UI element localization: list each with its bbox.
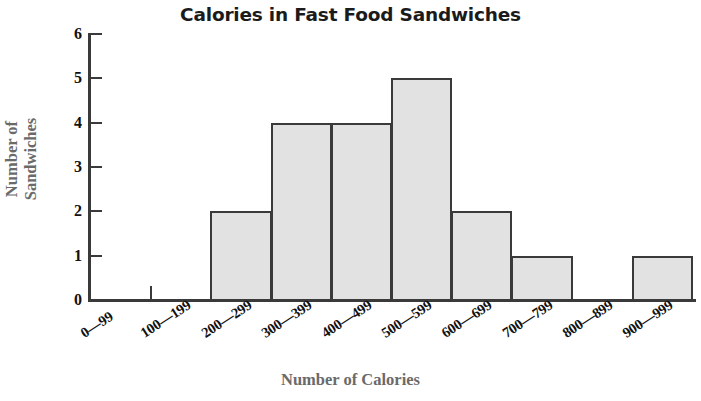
y-axis-tick-label: 4 [58,115,82,131]
x-axis-tick-label: 900—999 [619,297,676,342]
bar-400—499 [331,123,392,301]
y-axis-tick-label: 6 [58,26,82,42]
x-axis-title: Number of Calories [0,370,701,390]
bar-500—599 [391,78,452,301]
y-axis-title-line-2: Sandwiches [21,79,40,239]
x-axis-tick-label: 700—799 [499,297,556,342]
y-axis-tick-label: 5 [58,70,82,86]
x-axis-tick-label: 400—499 [318,297,375,342]
x-axis-tick-label: 100—199 [138,297,195,342]
x-axis-tick-label: 800—899 [559,297,616,342]
bar-600—699 [451,211,512,301]
histogram-chart: Calories in Fast Food Sandwiches 0123456… [0,0,701,401]
x-axis-tick-label: 300—399 [258,297,315,342]
x-axis-tick-label: 0—99 [77,308,116,342]
bar-700—799 [511,256,572,301]
x-axis-boundary-tick [150,286,152,300]
y-axis-tick-label: 3 [58,159,82,175]
y-axis-tick-1 [91,255,102,257]
chart-title: Calories in Fast Food Sandwiches [0,4,701,25]
y-axis-tick-3 [91,166,102,168]
x-axis-tick-label: 600—699 [439,297,496,342]
y-axis-title: Number of Sandwiches [2,79,40,239]
y-axis-title-line-1: Number of [2,79,21,239]
bar-900—999 [632,256,693,301]
y-axis-tick-4 [91,122,102,124]
y-axis-tick-label: 1 [58,248,82,264]
bar-300—399 [271,123,332,301]
bar-200—299 [210,211,271,301]
y-axis-tick-label: 2 [58,203,82,219]
x-axis-tick-label: 200—299 [198,297,255,342]
y-axis-tick-2 [91,210,102,212]
x-axis-tick-label: 500—599 [378,297,435,342]
y-axis-tick-6 [91,33,102,35]
y-axis-tick-label: 0 [58,292,82,308]
y-axis-tick-5 [91,77,102,79]
